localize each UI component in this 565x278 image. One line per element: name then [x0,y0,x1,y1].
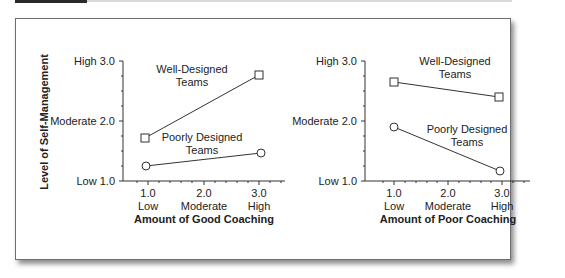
x-tick-label: Moderate [181,200,227,212]
y-tick-moderate: Moderate 2.0 [292,115,357,127]
circle-marker-icon [390,123,398,131]
chart-good-coaching: High 3.0 Moderate 2.0 Low 1.0 1.0 2.0 3.… [50,55,285,225]
series-label-well-designed-line2: Teams [176,76,209,88]
y-tick-low: Low 1.0 [318,175,357,187]
series-label-well-designed-line2: Teams [439,68,472,80]
x-axis-label: Amount of Good Coaching [134,213,274,225]
square-marker-icon [390,78,398,86]
x-tick-value: 1.0 [140,187,155,199]
series-label-well-designed: Well-Designed [419,55,490,67]
x-tick-label: Moderate [425,200,471,212]
circle-marker-icon [496,167,504,175]
series-label-well-designed: Well-Designed [156,63,227,75]
x-tick-value: 2.0 [196,187,211,199]
x-tick-value: 3.0 [494,187,509,199]
circle-marker-icon [142,162,150,170]
series-label-poorly-designed-line2: Teams [451,136,484,148]
square-marker-icon [141,134,149,142]
x-tick-label: Low [384,200,404,212]
series-label-poorly-designed: Poorly Designed [427,123,508,135]
square-marker-icon [255,71,263,79]
series-label-poorly-designed: Poorly Designed [162,131,243,143]
y-axis-label: Level of Self-Management [38,54,50,190]
x-tick-label: High [248,200,271,212]
y-tick-high: High 3.0 [316,55,357,67]
x-axis-label: Amount of Poor Coaching [380,213,516,225]
figure-svg: Level of Self-Management [0,0,565,278]
series-label-poorly-designed-line2: Teams [186,144,219,156]
circle-marker-icon [257,149,265,157]
y-tick-low: Low 1.0 [76,175,115,187]
x-tick-value: 2.0 [440,187,455,199]
x-tick-label: High [491,200,514,212]
x-tick-label: Low [138,200,158,212]
square-marker-icon [495,93,503,101]
y-tick-high: High 3.0 [74,55,115,67]
x-tick-value: 3.0 [251,187,266,199]
y-tick-moderate: Moderate 2.0 [50,115,115,127]
chart-poor-coaching: High 3.0 Moderate 2.0 Low 1.0 1.0 2.0 3.… [292,55,530,225]
x-tick-value: 1.0 [386,187,401,199]
